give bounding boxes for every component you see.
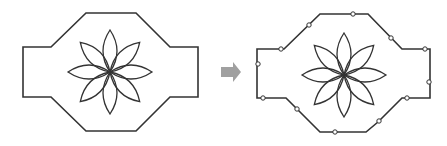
vertex-node xyxy=(405,96,409,100)
vertex-node xyxy=(389,36,393,40)
petal xyxy=(337,75,351,117)
petal xyxy=(68,65,110,79)
petal xyxy=(103,30,117,72)
petal xyxy=(344,68,386,82)
petal xyxy=(302,68,344,82)
petal xyxy=(110,65,152,79)
original-figure xyxy=(23,13,198,131)
vertex-node xyxy=(279,47,283,51)
vertex-node xyxy=(351,12,355,16)
flower-icon xyxy=(302,33,386,117)
vertex-node xyxy=(377,119,381,123)
flower-icon xyxy=(68,30,152,114)
vertex-node xyxy=(307,23,311,27)
transform-arrow-icon xyxy=(221,62,241,82)
vertex-node xyxy=(261,96,265,100)
vertex-node xyxy=(423,47,427,51)
diagram-canvas xyxy=(0,0,447,146)
transformed-figure xyxy=(256,12,431,134)
vertex-node xyxy=(256,62,260,66)
vertex-node xyxy=(333,130,337,134)
vertex-node xyxy=(295,107,299,111)
vertex-node xyxy=(427,80,431,84)
petal xyxy=(337,33,351,75)
arrow-shape xyxy=(221,62,241,82)
petal xyxy=(103,72,117,114)
